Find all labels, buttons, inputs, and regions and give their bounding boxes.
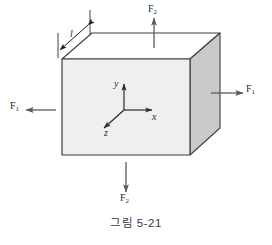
force-label-bottom: F2	[120, 193, 129, 203]
figure-drawing	[0, 0, 272, 245]
axis-label-z: z	[104, 128, 108, 138]
force-label-left: F1	[10, 101, 19, 111]
force-label-top-subscript: 2	[154, 8, 158, 16]
figure-caption: 그림 5-21	[0, 214, 272, 230]
box-front-face	[62, 59, 190, 155]
figure-container: F2 F2 F1 F1 y x z l 그림 5-21	[0, 0, 272, 245]
force-label-top: F2	[148, 4, 157, 14]
force-label-bottom-subscript: 2	[126, 197, 130, 205]
axis-label-x: x	[152, 112, 156, 122]
dimension-label-length: l	[70, 29, 73, 39]
force-label-right: F1	[246, 84, 255, 94]
axis-label-y: y	[114, 79, 118, 89]
force-label-right-subscript: 1	[252, 88, 256, 96]
force-label-left-subscript: 1	[16, 105, 20, 113]
